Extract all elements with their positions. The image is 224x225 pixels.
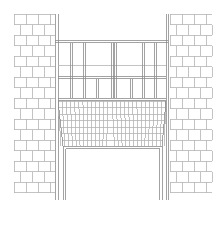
- brick-corbel: [58, 101, 166, 146]
- bay-window: [55, 40, 168, 101]
- left-brick-pier: [14, 14, 58, 200]
- right-brick-pier: [166, 14, 212, 200]
- elevation-drawing: Bay window elevation: [0, 0, 224, 225]
- bay-window-elevation: [0, 0, 224, 225]
- door-opening: [63, 146, 162, 200]
